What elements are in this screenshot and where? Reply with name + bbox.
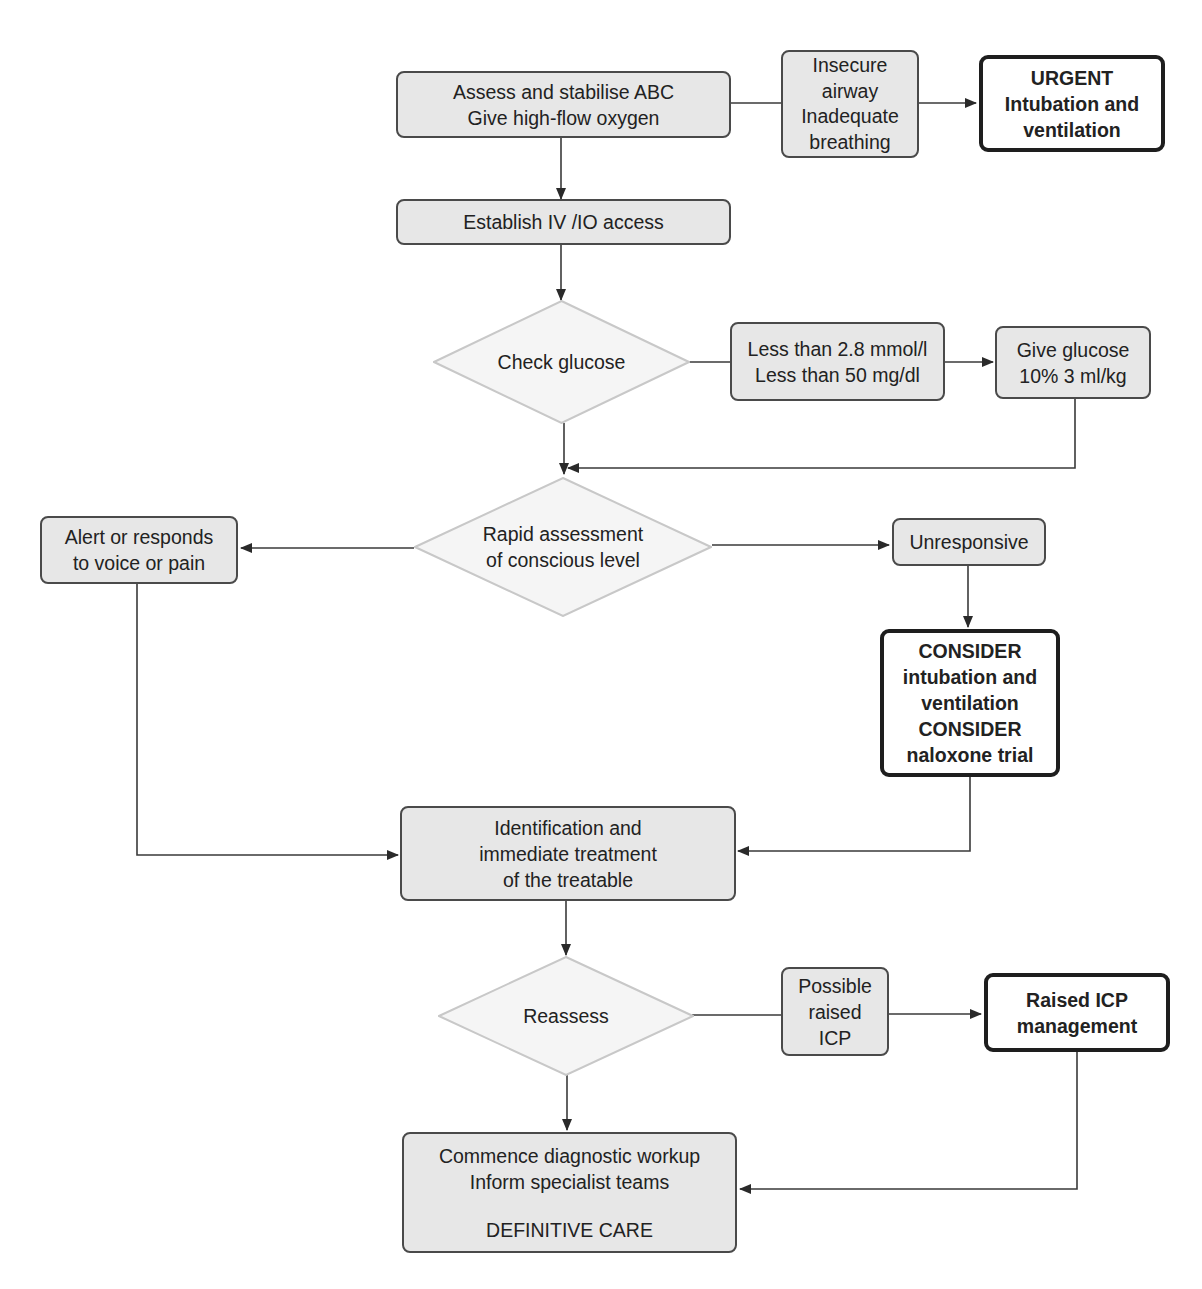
node-identification: Identification and immediate treatment o… xyxy=(400,806,736,901)
edge-management-definitive xyxy=(740,1052,1077,1189)
node-text: Reassess xyxy=(523,1003,609,1029)
node-text: Alert or responds xyxy=(65,524,214,550)
node-text: airway xyxy=(822,79,878,105)
decision-rapid-assessment: Rapid assessment of conscious level xyxy=(414,477,712,617)
node-text: Inform specialist teams xyxy=(470,1169,669,1195)
node-text: Rapid assessment xyxy=(483,521,643,547)
node-text: Insecure xyxy=(813,53,888,79)
node-definitive-care: Commence diagnostic workup Inform specia… xyxy=(402,1132,737,1253)
node-icp-management: Raised ICP management xyxy=(984,973,1170,1052)
decision-reassess: Reassess xyxy=(438,956,694,1076)
decision-check-glucose: Check glucose xyxy=(433,300,690,424)
node-text: ventilation xyxy=(921,690,1019,716)
node-text: naloxone trial xyxy=(907,742,1034,768)
edge-consider-identification xyxy=(738,776,970,851)
node-text: ventilation xyxy=(1023,117,1121,143)
node-text: Intubation and xyxy=(1005,91,1139,117)
node-text: Commence diagnostic workup xyxy=(439,1143,700,1169)
node-text: 10% 3 ml/kg xyxy=(1019,363,1126,389)
edge-alert-identification xyxy=(137,583,398,855)
node-text: of conscious level xyxy=(486,547,640,573)
node-text: management xyxy=(1017,1013,1137,1039)
node-text: Give glucose xyxy=(1017,337,1130,363)
node-text: CONSIDER xyxy=(919,716,1022,742)
node-iv-access: Establish IV /IO access xyxy=(396,199,731,245)
node-text: Less than 2.8 mmol/l xyxy=(748,336,928,362)
node-possible-icp: Possible raised ICP xyxy=(781,967,889,1056)
node-consider-intubation: CONSIDER intubation and ventilation CONS… xyxy=(880,629,1060,777)
node-text: Inadequate xyxy=(801,104,899,130)
node-text: of the treatable xyxy=(503,867,633,893)
node-text: Assess and stabilise ABC xyxy=(453,79,674,105)
node-text: raised xyxy=(808,999,861,1025)
node-text: intubation and xyxy=(903,664,1037,690)
node-give-glucose: Give glucose 10% 3 ml/kg xyxy=(995,326,1151,399)
node-text: Raised ICP xyxy=(1026,987,1128,1013)
node-text: URGENT xyxy=(1031,65,1113,91)
node-text: to voice or pain xyxy=(73,550,205,576)
node-text: Possible xyxy=(798,973,872,999)
node-text: Identification and xyxy=(494,815,641,841)
node-insecure-airway: Insecure airway Inadequate breathing xyxy=(781,50,919,158)
node-text: Establish IV /IO access xyxy=(463,209,664,235)
definitive-care-label: DEFINITIVE CARE xyxy=(486,1217,653,1243)
node-text: CONSIDER xyxy=(919,638,1022,664)
node-text: Less than 50 mg/dl xyxy=(755,362,920,388)
node-urgent-intubation: URGENT Intubation and ventilation xyxy=(979,55,1165,152)
node-text: Give high-flow oxygen xyxy=(468,105,660,131)
node-text: ICP xyxy=(819,1025,852,1051)
node-low-glucose: Less than 2.8 mmol/l Less than 50 mg/dl xyxy=(730,322,945,401)
node-assess-abc: Assess and stabilise ABC Give high-flow … xyxy=(396,71,731,138)
node-text: immediate treatment xyxy=(479,841,657,867)
node-alert-responds: Alert or responds to voice or pain xyxy=(40,516,238,584)
node-text: Check glucose xyxy=(498,349,626,375)
node-text: breathing xyxy=(809,130,890,156)
node-unresponsive: Unresponsive xyxy=(892,518,1046,566)
node-text: Unresponsive xyxy=(909,529,1028,555)
